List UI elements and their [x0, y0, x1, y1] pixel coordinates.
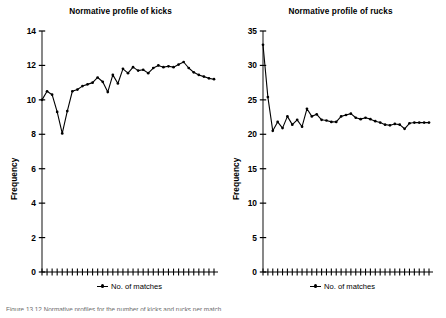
legend-label-rucks: No. of matches	[324, 283, 375, 291]
legend-kicks: No. of matches	[97, 283, 162, 291]
plot-area-rucks: 05101520253035	[223, 0, 446, 300]
svg-text:35: 35	[248, 26, 258, 36]
svg-text:4: 4	[31, 198, 36, 208]
svg-text:15: 15	[248, 164, 258, 174]
svg-text:8: 8	[31, 129, 36, 139]
svg-text:20: 20	[248, 129, 258, 139]
figure-container: Normative profile of kicks Frequency 024…	[0, 0, 446, 318]
legend-line-marker-icon	[310, 283, 321, 290]
svg-text:10: 10	[27, 95, 37, 105]
svg-text:6: 6	[31, 164, 36, 174]
plot-area-kicks: 02468101214	[0, 0, 223, 300]
svg-text:30: 30	[248, 60, 258, 70]
legend-line-marker-icon	[97, 283, 108, 290]
figure-caption: Figure 13.12 Normative profiles for the …	[6, 306, 336, 311]
svg-text:10: 10	[248, 198, 258, 208]
chart-panel-rucks: Normative profile of rucks Frequency 051…	[223, 0, 446, 300]
chart-panel-kicks: Normative profile of kicks Frequency 024…	[0, 0, 223, 300]
svg-text:5: 5	[252, 233, 257, 243]
svg-text:14: 14	[27, 26, 37, 36]
legend-rucks: No. of matches	[310, 283, 375, 291]
svg-text:0: 0	[252, 267, 257, 277]
svg-text:12: 12	[27, 60, 37, 70]
svg-text:25: 25	[248, 95, 258, 105]
svg-text:2: 2	[31, 233, 36, 243]
legend-label-kicks: No. of matches	[111, 283, 162, 291]
svg-text:0: 0	[31, 267, 36, 277]
